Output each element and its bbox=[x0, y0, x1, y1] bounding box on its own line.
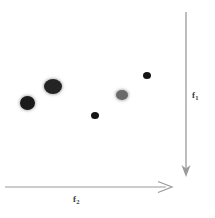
scatter-diagram-figure: f1 f2 bbox=[0, 0, 215, 218]
data-point-blob-4 bbox=[116, 90, 128, 100]
plot-area bbox=[0, 0, 215, 218]
vertical-axis-label: f1 bbox=[192, 91, 199, 100]
vertical-axis-label-sub: 1 bbox=[195, 94, 198, 101]
data-point-blob-1 bbox=[20, 96, 35, 110]
data-point-blob-5 bbox=[143, 72, 151, 79]
data-point-blob-3 bbox=[91, 112, 99, 119]
data-point-blob-2 bbox=[44, 79, 62, 94]
horizontal-axis-label: f2 bbox=[73, 195, 80, 204]
horizontal-axis-label-sub: 2 bbox=[76, 198, 79, 205]
